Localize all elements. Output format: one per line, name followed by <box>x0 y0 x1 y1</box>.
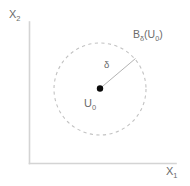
ball-label: Bδ(U0) <box>133 29 163 40</box>
center-label-subscript: 0 <box>92 103 96 112</box>
y-axis-label-subscript: 2 <box>16 14 20 23</box>
ball-label-main: B <box>133 28 140 40</box>
ball-label-close-paren: ) <box>159 28 163 40</box>
x-axis-label-subscript: 1 <box>173 171 177 180</box>
center-label: U0 <box>84 98 96 109</box>
center-label-main: U <box>84 97 92 109</box>
ball-label-delta-subscript: δ <box>140 34 144 43</box>
ball-label-arg-subscript: 0 <box>155 35 159 43</box>
y-axis-label: X2 <box>9 9 21 20</box>
delta-ball-figure: X2 X1 Bδ(U0) U0 δ <box>0 0 190 186</box>
x-axis-label: X1 <box>166 166 178 177</box>
center-point <box>97 85 103 91</box>
radius-label: δ <box>104 60 109 70</box>
ball-label-open-paren: (U <box>144 28 155 40</box>
